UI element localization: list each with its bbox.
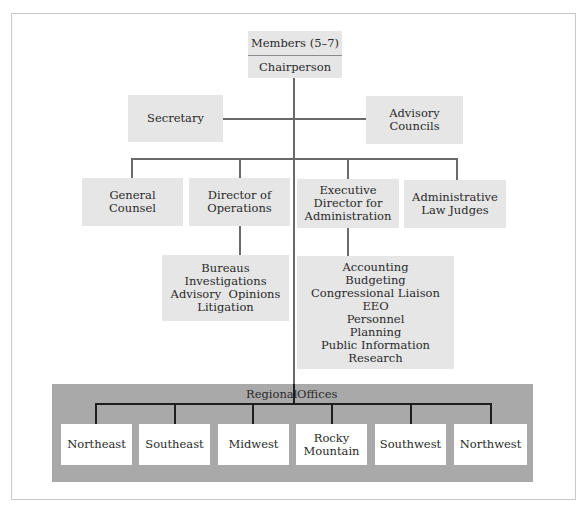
chairperson-box: Chairperson <box>248 56 342 78</box>
drop-northeast <box>95 403 97 424</box>
general-counsel-box: General Counsel <box>82 178 183 226</box>
unit-label-line: Administration <box>305 210 392 223</box>
advisory-label-line: Councils <box>389 120 439 133</box>
office-label: Southwest <box>380 438 441 451</box>
drop-southwest <box>410 403 412 424</box>
unit-label-line: Law Judges <box>421 204 488 217</box>
office-label: Mountain <box>303 445 359 458</box>
office-southeast: Southeast <box>139 424 210 465</box>
office-label: Northeast <box>67 438 126 451</box>
members-box: Members (5–7) <box>248 31 342 55</box>
list-item: Planning <box>350 326 402 339</box>
drop-general-counsel <box>131 158 133 178</box>
administration-sub-box: Accounting Budgeting Congressional Liais… <box>297 256 454 369</box>
drop-operations-sub <box>239 226 241 255</box>
drop-administration-sub <box>347 228 349 256</box>
trunk-line <box>293 78 295 385</box>
office-label: Northwest <box>460 438 522 451</box>
list-item: EEO <box>362 300 388 313</box>
drop-executive-director <box>347 158 349 179</box>
operations-sub-box: Bureaus Investigations Advisory Opinions… <box>162 255 289 321</box>
list-item: Accounting <box>343 261 409 274</box>
office-northwest: Northwest <box>454 424 527 465</box>
members-label: Members (5–7) <box>251 37 339 50</box>
secretary-box: Secretary <box>128 95 223 142</box>
list-item: Personnel <box>347 313 405 326</box>
drop-law-judges <box>456 158 458 180</box>
office-rocky-mountain: Rocky Mountain <box>296 424 367 465</box>
list-item: Congressional Liaison <box>311 287 440 300</box>
list-item: Litigation <box>197 301 253 314</box>
drop-director-operations <box>239 158 241 178</box>
secretary-label: Secretary <box>147 112 204 125</box>
office-label: Midwest <box>229 438 279 451</box>
drop-midwest <box>252 403 254 424</box>
list-item: Research <box>348 352 402 365</box>
law-judges-box: Administrative Law Judges <box>404 180 506 228</box>
executive-director-box: Executive Director for Administration <box>297 179 399 228</box>
units-branch-line <box>131 158 458 160</box>
office-label: Southeast <box>145 438 203 451</box>
regional-title-left: Regional <box>246 387 297 401</box>
chairperson-label: Chairperson <box>259 61 331 74</box>
drop-southeast <box>174 403 176 424</box>
drop-rocky-mountain <box>331 403 333 424</box>
staff-line <box>223 118 366 120</box>
unit-label-line: Counsel <box>109 202 156 215</box>
list-item: Public Information <box>321 339 430 352</box>
regional-branch-line <box>95 403 492 405</box>
office-northeast: Northeast <box>61 424 132 465</box>
advisory-councils-box: Advisory Councils <box>366 96 463 144</box>
list-item: Budgeting <box>345 274 405 287</box>
office-label: Rocky <box>314 432 350 445</box>
regional-title-right: Offices <box>297 387 337 401</box>
director-operations-box: Director of Operations <box>189 178 290 226</box>
office-southwest: Southwest <box>375 424 446 465</box>
unit-label-line: Operations <box>207 202 271 215</box>
drop-northwest <box>490 403 492 424</box>
office-midwest: Midwest <box>218 424 289 465</box>
